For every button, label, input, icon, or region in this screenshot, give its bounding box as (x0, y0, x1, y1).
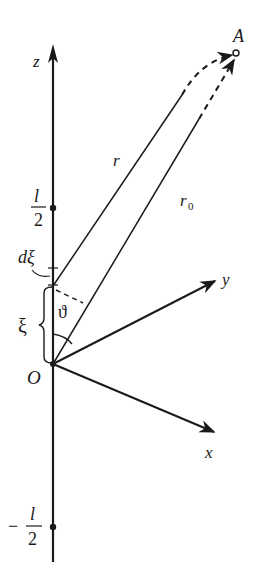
r0-label: r 0 (180, 191, 194, 212)
d-xi-leader (32, 270, 50, 276)
xi-label: ξ (18, 315, 27, 337)
z-axis (48, 44, 58, 562)
half-length-numerator: l (30, 504, 35, 524)
origin-label: O (27, 367, 41, 388)
half-length-denominator: 2 (34, 210, 43, 230)
plus-half-length-dot (50, 205, 56, 211)
minus-half-length-label: − l 2 (8, 504, 42, 549)
x-axis-label: x (204, 443, 213, 462)
z-axis-label: z (32, 52, 40, 71)
r0-label-subscript: 0 (188, 200, 194, 212)
half-length-numerator: l (34, 186, 39, 206)
minus-sign: − (8, 516, 18, 536)
y-axis-label: y (220, 270, 230, 289)
xi-brace (39, 287, 52, 363)
theta-label: ϑ (58, 302, 67, 322)
origin-dot (50, 361, 56, 367)
r-vector (53, 95, 182, 286)
point-a-marker (233, 50, 239, 56)
r0-label-base: r (180, 191, 187, 210)
diagram-canvas: z l 2 − l 2 dξ ξ r r 0 A ϑ y x O (0, 0, 256, 588)
half-length-denominator: 2 (28, 529, 37, 549)
d-xi-label: dξ (18, 247, 35, 267)
r-label: r (113, 151, 120, 170)
minus-half-length-dot (50, 524, 56, 530)
point-a-label: A (232, 26, 245, 46)
r-dashed-arc (182, 55, 232, 95)
plus-half-length-label: l 2 (31, 186, 46, 230)
x-axis (53, 364, 214, 432)
